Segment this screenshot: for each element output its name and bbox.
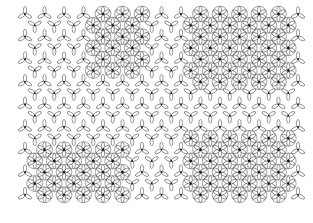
tiling-pattern xyxy=(0,0,313,223)
